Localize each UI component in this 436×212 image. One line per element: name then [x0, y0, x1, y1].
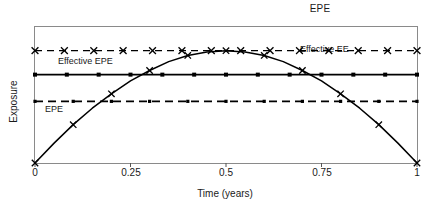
effective-epe-marker	[65, 73, 69, 77]
epe-marker	[339, 100, 342, 103]
effective-epe-marker	[351, 73, 355, 77]
epe-marker	[224, 100, 227, 103]
epe-marker	[301, 100, 304, 103]
series-epe	[33, 100, 418, 103]
epe-marker	[186, 100, 189, 103]
effective-epe-marker	[320, 73, 324, 77]
effective-epe-marker	[383, 73, 387, 77]
effective-epe-marker	[97, 73, 101, 77]
epe-marker	[110, 100, 113, 103]
plot-frame	[35, 27, 418, 164]
ee-profile-line	[35, 51, 417, 163]
effective-epe-marker	[256, 73, 260, 77]
epe-marker	[377, 100, 380, 103]
axis-frame	[35, 27, 418, 164]
series-effective-epe	[33, 73, 419, 77]
series-layer	[32, 47, 421, 166]
effective-epe-marker	[192, 73, 196, 77]
effective-epe-marker	[224, 73, 228, 77]
epe-marker	[72, 100, 75, 103]
effective-epe-marker	[160, 73, 164, 77]
effective-epe-marker	[129, 73, 133, 77]
effective-epe-marker	[288, 73, 292, 77]
plot-canvas	[0, 0, 436, 212]
effective-epe-marker	[415, 73, 419, 77]
chart-figure: EPE Exposure Time (years) 0 0.25 0.5 0.7…	[0, 0, 436, 212]
series-ee-profile	[32, 47, 420, 166]
epe-marker	[415, 100, 418, 103]
epe-marker	[263, 100, 266, 103]
effective-epe-marker	[33, 73, 37, 77]
epe-marker	[148, 100, 151, 103]
epe-marker	[33, 100, 36, 103]
